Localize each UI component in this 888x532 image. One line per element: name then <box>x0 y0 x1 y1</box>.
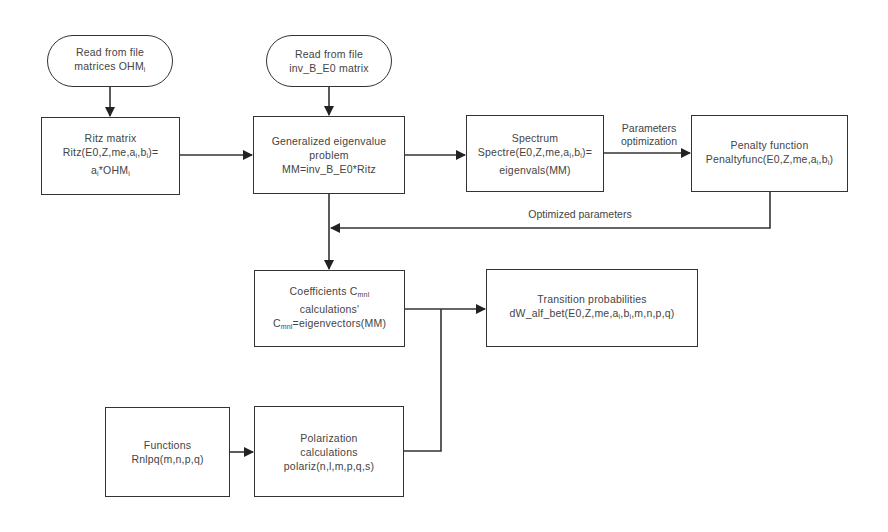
read-ohm-terminal: Read from file matrices OHMi <box>47 35 173 87</box>
ritz-title: Ritz matrix <box>85 131 137 145</box>
coeff-line2: calculations' <box>300 302 359 316</box>
transition-title: Transition probabilities <box>537 292 646 306</box>
spectrum-box: Spectrum Spectre(E0,Z,me,ai,bi)= eigenva… <box>466 115 604 192</box>
read-ohm-line1: Read from file <box>76 45 144 59</box>
ritz-formula: Ritz(E0,Z,me,ai,bi)= <box>63 145 159 163</box>
read-inv-line2: inv_B_E0 matrix <box>289 61 368 75</box>
penalty-formula: Penaltyfunc(E0,Z,me,ai,bi) <box>706 152 833 170</box>
parameters-optimization-label: Parameters optimization <box>608 122 690 148</box>
polariz-line1: Polarization <box>300 431 357 445</box>
spectrum-title: Spectrum <box>512 131 559 145</box>
generalized-eigenvalue-box: Generalized eigenvalue problem MM=inv_B_… <box>253 116 405 194</box>
spectrum-formula: Spectre(E0,Z,me,ai,bi)= <box>478 145 592 163</box>
read-inv-terminal: Read from file inv_B_E0 matrix <box>266 35 392 87</box>
geneig-line3: MM=inv_B_E0*Ritz <box>282 162 376 176</box>
optimized-parameters-label: Optimized parameters <box>500 208 660 221</box>
polariz-line3: polariz(n,l,m,p,q,s) <box>284 459 374 473</box>
penalty-title: Penalty function <box>731 138 809 152</box>
geneig-line1: Generalized eigenvalue <box>272 134 387 148</box>
functions-box: Functions Rnlpq(m,n,p,q) <box>105 407 230 497</box>
polariz-line2: calculations <box>300 445 357 459</box>
spectrum-line3: eigenvals(MM) <box>499 163 570 177</box>
geneig-line2: problem <box>309 148 348 162</box>
functions-title: Functions <box>144 438 191 452</box>
read-ohm-line2: matrices OHMi <box>74 59 145 77</box>
penalty-function-box: Penalty function Penaltyfunc(E0,Z,me,ai,… <box>691 115 848 192</box>
ritz-matrix-box: Ritz matrix Ritz(E0,Z,me,ai,bi)= ai*OHMi <box>41 117 180 195</box>
polarization-box: Polarization calculations polariz(n,l,m,… <box>254 406 404 497</box>
coeff-line3: Cmnl=eigenvectors(MM) <box>273 316 386 334</box>
ritz-formula-2: ai*OHMi <box>91 163 130 181</box>
coeff-line1: Coefficients Cmnl <box>290 284 370 302</box>
read-inv-line1: Read from file <box>295 47 363 61</box>
transition-probabilities-box: Transition probabilities dW_alf_bet(E0,Z… <box>486 269 698 347</box>
transition-formula: dW_alf_bet(E0,Z,me,ai,bi,m,n,p,q) <box>510 306 675 324</box>
coefficients-box: Coefficients Cmnl calculations' Cmnl=eig… <box>254 270 405 347</box>
functions-formula: Rnlpq(m,n,p,q) <box>131 452 203 466</box>
